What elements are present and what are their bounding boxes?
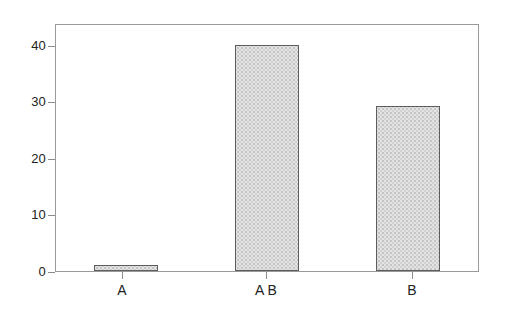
- x-axis-tick-ab: [266, 272, 267, 279]
- y-axis-label-40: 40: [2, 39, 46, 52]
- bar-a: [94, 265, 158, 271]
- plot-area: [55, 24, 479, 272]
- y-axis-label-30: 30: [2, 95, 46, 108]
- x-axis-label-a: A: [82, 283, 162, 297]
- y-axis-label-20: 20: [2, 152, 46, 165]
- y-axis-tick-20: [48, 159, 55, 160]
- bar-chart-figure: 40 30 20 10 0 A A B B: [0, 0, 505, 310]
- y-axis-tick-40: [48, 46, 55, 47]
- y-axis-label-10: 10: [2, 208, 46, 221]
- bar-b: [376, 106, 440, 271]
- y-axis-tick-0: [48, 272, 55, 273]
- y-axis-label-0: 0: [2, 265, 46, 278]
- x-axis-tick-a: [122, 272, 123, 279]
- y-axis-tick-30: [48, 102, 55, 103]
- y-axis-tick-10: [48, 215, 55, 216]
- bar-ab: [235, 45, 299, 271]
- x-axis-tick-b: [412, 272, 413, 279]
- x-axis-label-ab: A B: [226, 283, 306, 297]
- x-axis-label-b: B: [372, 283, 452, 297]
